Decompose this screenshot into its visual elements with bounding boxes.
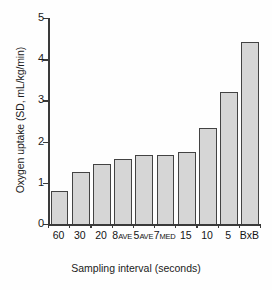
- x-axis-title: Sampling interval (seconds): [0, 262, 272, 274]
- y-tick-label: 1: [38, 176, 44, 189]
- bar: [135, 155, 153, 224]
- bar: [114, 159, 132, 224]
- bar: [178, 152, 196, 225]
- bar: [72, 172, 90, 224]
- y-tick-label: 2: [38, 135, 44, 148]
- y-tick-label: 3: [38, 93, 44, 106]
- bar-series: [49, 18, 260, 224]
- bar: [157, 155, 175, 224]
- bar: [220, 92, 238, 224]
- bar: [51, 191, 69, 224]
- x-tick-label: BxB: [235, 228, 264, 242]
- x-axis-tick-labels: 6030208AVE5AVE7MED15105BxB: [48, 228, 261, 244]
- bar-chart-figure: Oxygen uptake (SD, mL/kg/min) 012345 603…: [0, 0, 272, 290]
- y-axis-title: Oxygen uptake (SD, mL/kg/min): [14, 4, 26, 236]
- y-tick-label: 4: [38, 52, 44, 65]
- bar: [93, 164, 111, 224]
- bar: [199, 128, 217, 224]
- y-tick-label: 5: [38, 11, 44, 24]
- bar: [241, 42, 259, 224]
- plot-area: 012345: [48, 18, 260, 224]
